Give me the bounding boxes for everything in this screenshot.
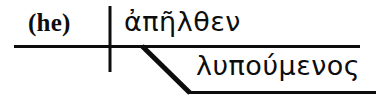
participle-label: λυπούμενος: [196, 52, 360, 79]
verb-label: ἀπῆλθεν: [124, 8, 241, 35]
sentence-diagram: (he) ἀπῆλθεν λυπούμενος: [0, 0, 386, 107]
subject-label: (he): [28, 10, 70, 35]
participle-slant-line: [142, 46, 190, 93]
